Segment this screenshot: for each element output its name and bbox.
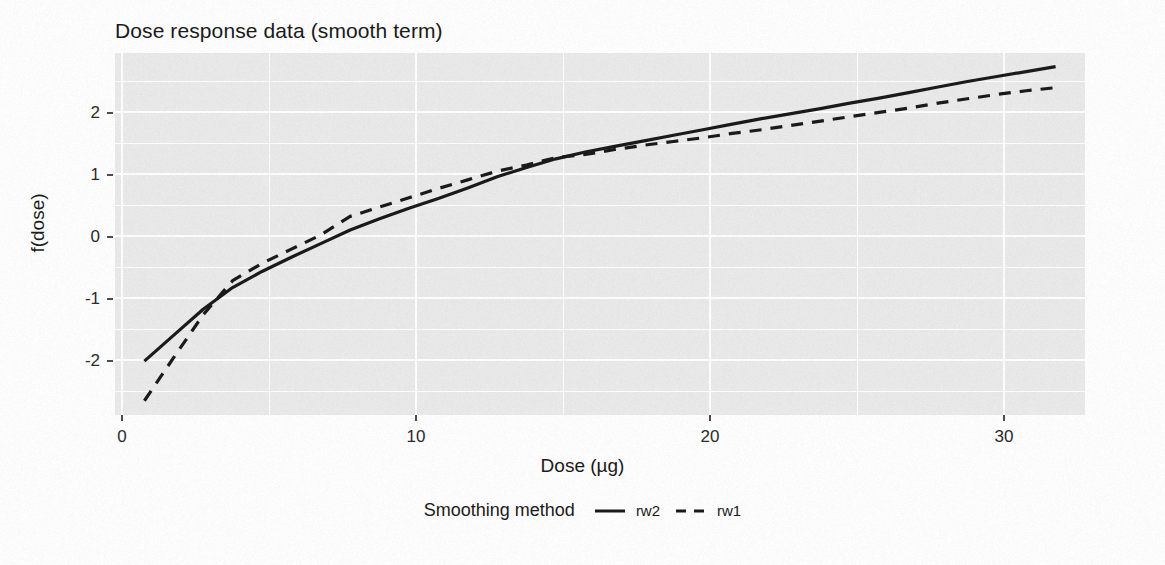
legend: Smoothing method rw2 rw1: [0, 500, 1165, 521]
y-tick-mark-2: [107, 112, 113, 114]
x-tick-mark-20: [709, 415, 711, 421]
legend-key-solid-line-icon: [593, 502, 627, 520]
x-tick-label-20: 20: [680, 427, 740, 447]
legend-title: Smoothing method: [424, 500, 575, 521]
plot-area-svg: [115, 53, 1085, 415]
legend-item-rw1[interactable]: rw1: [674, 502, 741, 520]
legend-label-rw2: rw2: [636, 502, 660, 519]
chart-figure: Dose response data (smooth term): [0, 0, 1165, 565]
y-tick-label-0: 0: [58, 227, 100, 247]
y-tick-mark-1: [107, 174, 113, 176]
x-tick-label-10: 10: [386, 427, 446, 447]
y-tick-mark-neg1: [107, 298, 113, 300]
y-tick-mark-neg2: [107, 360, 113, 362]
x-tick-mark-30: [1003, 415, 1005, 421]
y-axis-title: f(dose): [27, 163, 49, 283]
x-tick-mark-10: [415, 415, 417, 421]
x-tick-label-30: 30: [974, 427, 1034, 447]
y-tick-label-neg2: -2: [58, 351, 100, 371]
legend-key-dashed-line-icon: [674, 502, 708, 520]
y-tick-label-2: 2: [58, 103, 100, 123]
legend-item-rw2[interactable]: rw2: [593, 502, 660, 520]
x-axis-title: Dose (µg): [0, 455, 1165, 477]
chart-title: Dose response data (smooth term): [115, 19, 443, 43]
x-tick-mark-0: [121, 415, 123, 421]
series-line-rw2: [144, 67, 1055, 362]
series-line-rw1: [144, 88, 1055, 401]
plot-panel: [115, 53, 1085, 415]
x-tick-label-0: 0: [92, 427, 152, 447]
y-tick-mark-0: [107, 236, 113, 238]
legend-label-rw1: rw1: [717, 502, 741, 519]
y-tick-label-neg1: -1: [58, 289, 100, 309]
y-tick-label-1: 1: [58, 165, 100, 185]
